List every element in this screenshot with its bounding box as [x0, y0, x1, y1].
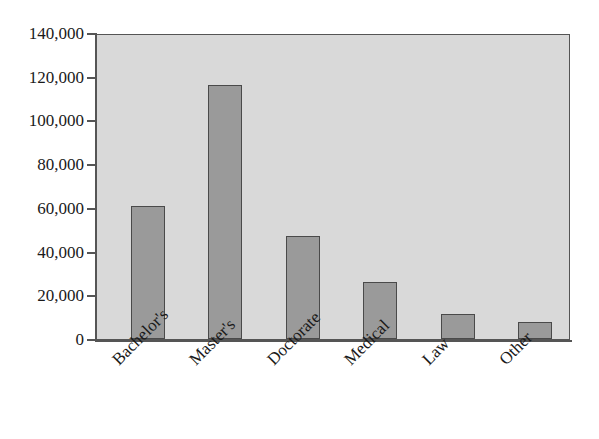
y-tick-mark [87, 295, 96, 297]
y-tick-label: 60,000 [0, 200, 84, 217]
y-tick-mark [87, 77, 96, 79]
y-tick-mark [87, 33, 96, 35]
y-tick-label: 120,000 [0, 69, 84, 86]
bar-chart: 020,00040,00060,00080,000100,000120,0001… [0, 0, 599, 439]
y-tick-mark [87, 252, 96, 254]
bars-layer [97, 35, 569, 339]
y-tick-label: 20,000 [0, 287, 84, 304]
y-tick-mark [87, 120, 96, 122]
y-tick-label: 0 [0, 331, 84, 348]
bar-law [441, 314, 475, 339]
plot-area [96, 34, 570, 340]
y-tick-label: 80,000 [0, 156, 84, 173]
y-tick-mark [87, 339, 96, 341]
bar-master-s [208, 85, 242, 339]
y-tick-label: 100,000 [0, 112, 84, 129]
y-tick-mark [87, 208, 96, 210]
y-tick-label: 140,000 [0, 25, 84, 42]
x-axis-line [95, 340, 572, 342]
y-tick-label: 40,000 [0, 244, 84, 261]
y-tick-mark [87, 164, 96, 166]
